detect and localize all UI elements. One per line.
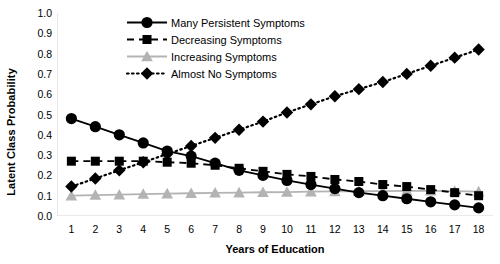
legend-item: Many Persistent Symptoms <box>126 14 346 31</box>
legend-label: Almost No Symptoms <box>168 68 277 80</box>
legend-key-diamond-icon <box>126 65 168 82</box>
x-tick-label: 8 <box>226 223 252 235</box>
x-tick-label: 16 <box>418 223 444 235</box>
x-tick-label: 13 <box>346 223 372 235</box>
x-tick-label: 15 <box>394 223 420 235</box>
x-tick-label: 17 <box>442 223 468 235</box>
x-tick-label: 12 <box>322 223 348 235</box>
series-circle <box>66 113 484 214</box>
x-axis-title: Years of Education <box>55 243 495 255</box>
x-tick-label: 3 <box>106 223 132 235</box>
x-tick-label: 7 <box>202 223 228 235</box>
x-tick-label: 2 <box>82 223 108 235</box>
legend-item: Decreasing Symptoms <box>126 31 346 48</box>
legend-item: Almost No Symptoms <box>126 65 346 82</box>
x-tick-label: 9 <box>250 223 276 235</box>
legend-label: Many Persistent Symptoms <box>168 17 305 29</box>
chart-legend: Many Persistent SymptomsDecreasing Sympt… <box>126 14 346 82</box>
x-tick-label: 18 <box>466 223 492 235</box>
x-tick-label: 1 <box>58 223 84 235</box>
legend-key-circle-icon <box>126 14 168 31</box>
x-tick-label: 10 <box>274 223 300 235</box>
x-tick-label: 14 <box>370 223 396 235</box>
x-tick-label: 6 <box>178 223 204 235</box>
series-triangle <box>66 185 485 200</box>
legend-label: Decreasing Symptoms <box>168 34 282 46</box>
legend-item: Increasing Symptoms <box>126 48 346 65</box>
x-tick-label: 11 <box>298 223 324 235</box>
x-tick-label: 4 <box>130 223 156 235</box>
chart-figure: Latent Class Probability 0.00.10.20.30.4… <box>0 0 500 264</box>
legend-key-triangle-icon <box>126 48 168 65</box>
legend-label: Increasing Symptoms <box>168 51 277 63</box>
legend-key-square-icon <box>126 31 168 48</box>
x-tick-label: 5 <box>154 223 180 235</box>
